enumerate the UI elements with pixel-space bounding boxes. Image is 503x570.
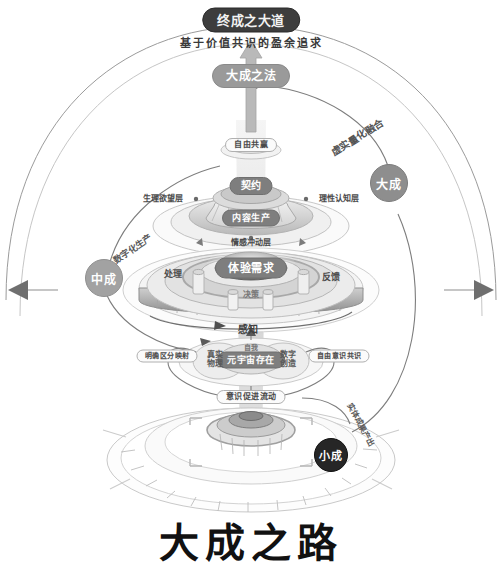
label-physiological-layer: 生理欲望层 (143, 195, 183, 203)
label-rational-layer: 理性认知层 (319, 195, 359, 203)
label-feedback: 反馈 (322, 273, 340, 282)
label-experience-demand: 体验需求 (215, 258, 287, 279)
label-decision: 决策 (243, 291, 259, 299)
label-emotional-layer: 情感冲动层 (231, 239, 271, 247)
label-free-win: 自由共赢 (225, 138, 277, 152)
label-process: 处理 (164, 270, 182, 279)
pylon-center-right (263, 290, 273, 310)
label-free-consciousness-consensus: 自由意识共识 (309, 350, 370, 363)
label-real-physical: 真实 物理 (207, 351, 223, 368)
pylon-center-left (228, 290, 238, 310)
label-digital-creation: 数字 创造 (280, 351, 296, 368)
poster-title: 大成之路 (159, 511, 343, 569)
apex-node[interactable]: 终成之大道 (202, 8, 300, 33)
method-node[interactable]: 大成之法 (212, 64, 290, 88)
label-content-production: 内容生产 (222, 210, 280, 227)
node-xiao-cheng[interactable]: 小成 (314, 438, 348, 472)
connector-entity-output (352, 214, 415, 432)
label-contract: 契约 (230, 177, 273, 195)
label-clear-mapping: 明确区分映射 (137, 350, 198, 363)
poster-subtitle: 基于价值共识的盈余追求 (180, 38, 323, 50)
pylon-right (298, 269, 309, 294)
label-metaverse-existence: 元宇宙存在 (217, 352, 285, 369)
diagram-canvas: 终成之大道 基于价值共识的盈余追求 大成之法 大成 中成 小成 虚实量化融合 数… (0, 0, 503, 570)
label-perception: 感知 (238, 325, 258, 336)
label-consciousness-flow: 意识促进流动 (217, 390, 286, 404)
node-da-cheng[interactable]: 大成 (370, 164, 408, 202)
pylon-left (193, 269, 204, 294)
